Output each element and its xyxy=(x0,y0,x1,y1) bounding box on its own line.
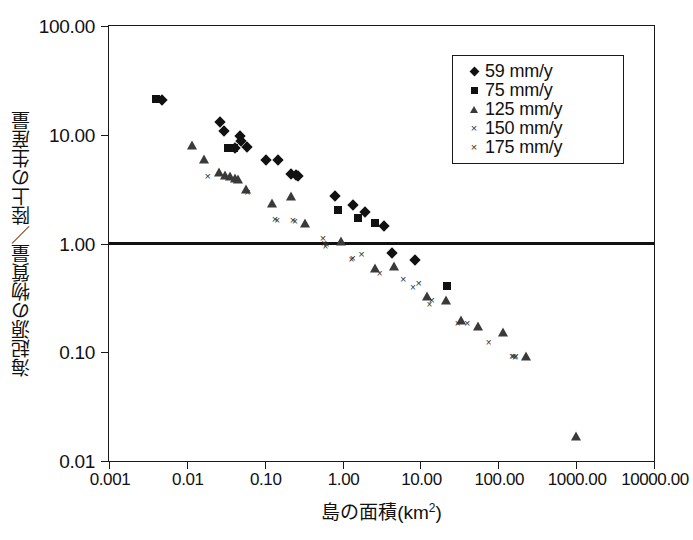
data-point xyxy=(267,199,277,208)
data-point: × xyxy=(357,250,366,259)
legend-marker-diamond-icon xyxy=(463,68,485,75)
data-point: × xyxy=(511,352,520,361)
legend-item-label: 150 mm/y xyxy=(485,118,562,139)
data-point: × xyxy=(453,319,462,328)
legend-item: 125 mm/y xyxy=(463,100,611,119)
data-point xyxy=(498,327,508,336)
legend-item: ×150 mm/y xyxy=(463,119,611,138)
data-point xyxy=(233,175,243,184)
legend-marker-triangle-icon xyxy=(463,106,485,113)
data-point xyxy=(261,154,272,165)
x-axis-tick-label: 1000.00 xyxy=(548,470,607,490)
legend-item-label: 75 mm/y xyxy=(485,80,553,101)
x-axis-tick-label: 0.10 xyxy=(250,470,282,490)
reference-line xyxy=(109,242,654,245)
data-point: × xyxy=(399,275,408,284)
x-axis-tick-label: 100.00 xyxy=(474,470,524,490)
data-point xyxy=(336,237,346,246)
data-point xyxy=(286,191,296,200)
data-point xyxy=(441,296,451,305)
x-axis-tick-label: 1.00 xyxy=(328,470,360,490)
data-point xyxy=(300,218,310,227)
legend-item-label: 59 mm/y xyxy=(485,61,553,82)
y-axis-tick-label: 0.10 xyxy=(59,342,95,364)
x-axis-tick: 10000.00 xyxy=(654,461,655,469)
data-point xyxy=(354,214,362,222)
data-point xyxy=(371,219,379,227)
data-point: × xyxy=(203,172,212,181)
x-axis-tick: 1000.00 xyxy=(576,461,577,469)
data-point xyxy=(521,351,531,360)
x-axis-tick: 0.10 xyxy=(265,461,266,469)
data-point xyxy=(473,321,483,330)
x-axis-tick: 100.00 xyxy=(498,461,499,469)
legend-item: 75 mm/y xyxy=(463,81,611,100)
data-point xyxy=(334,206,342,214)
y-axis-tick-label: 1.00 xyxy=(59,234,95,256)
legend-marker-square-icon xyxy=(463,87,485,94)
data-point xyxy=(347,200,358,211)
y-axis-title-text: 海起源の物質量／陸上の生産量 xyxy=(8,111,35,377)
data-point xyxy=(409,255,420,266)
y-axis-tick: 100.00 xyxy=(101,26,109,27)
data-point xyxy=(389,262,399,271)
x-axis-tick: 0.01 xyxy=(187,461,188,469)
y-axis-title: 海起源の物質量／陸上の生産量 xyxy=(6,25,36,462)
data-point xyxy=(378,220,389,231)
data-point xyxy=(443,282,451,290)
y-axis-tick: 1.00 xyxy=(101,244,109,245)
data-point xyxy=(230,144,238,152)
x-axis-tick: 10.00 xyxy=(420,461,421,469)
data-point xyxy=(571,431,581,440)
data-point xyxy=(329,190,340,201)
data-point xyxy=(242,141,253,152)
scatter-chart-figure: 海起源の物質量／陸上の生産量 ×××××××××××××××××××××××××… xyxy=(0,0,693,540)
legend-item: ×175 mm/y xyxy=(463,138,611,157)
legend-marker-cross-icon: × xyxy=(463,123,485,134)
y-axis-tick: 0.01 xyxy=(101,461,109,462)
x-axis-tick-label: 10000.00 xyxy=(621,470,689,490)
x-axis-title: 島の面積(km2) xyxy=(108,497,655,524)
data-point: × xyxy=(484,337,493,346)
x-axis-tick: 1.00 xyxy=(343,461,344,469)
chart-legend: 59 mm/y75 mm/y125 mm/y×150 mm/y×175 mm/y xyxy=(452,55,624,164)
legend-item-label: 125 mm/y xyxy=(485,99,562,120)
x-axis-title-superscript: 2 xyxy=(429,501,436,515)
x-axis-title-text: 島の面積(km xyxy=(321,502,429,523)
data-point: × xyxy=(347,255,356,264)
x-axis-tick: 0.001 xyxy=(109,461,110,469)
data-point: × xyxy=(321,242,330,251)
data-point: × xyxy=(243,187,252,196)
data-point xyxy=(273,154,284,165)
legend-item: 59 mm/y xyxy=(463,62,611,81)
data-point: × xyxy=(425,299,434,308)
data-point xyxy=(199,154,209,163)
data-point: × xyxy=(375,269,384,278)
data-point: × xyxy=(408,282,417,291)
x-axis-tick-label: 0.01 xyxy=(172,470,204,490)
data-point xyxy=(386,247,397,258)
data-point: × xyxy=(291,216,300,225)
data-point xyxy=(187,141,197,150)
y-axis-tick: 0.10 xyxy=(101,352,109,353)
data-point: × xyxy=(273,215,282,224)
y-axis-tick: 10.00 xyxy=(101,135,109,136)
x-axis-title-tail: ) xyxy=(436,502,442,523)
data-point xyxy=(152,95,160,103)
x-axis-tick-label: 0.001 xyxy=(90,470,131,490)
legend-item-label: 175 mm/y xyxy=(485,137,562,158)
y-axis-tick-label: 10.00 xyxy=(49,125,95,147)
data-point: × xyxy=(463,319,472,328)
legend-marker-cross-small-icon: × xyxy=(463,142,485,153)
y-axis-tick-label: 100.00 xyxy=(39,16,95,38)
x-axis-tick-label: 10.00 xyxy=(401,470,442,490)
